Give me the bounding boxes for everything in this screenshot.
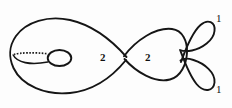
multiplicity-label-top-tail: 1 bbox=[216, 13, 222, 24]
multiplicity-label-left-branch: 2 bbox=[100, 52, 106, 63]
left-large-loop-path bbox=[10, 18, 126, 93]
right-loop-path bbox=[124, 29, 187, 81]
multiplicity-label-bottom-tail: 1 bbox=[216, 84, 222, 95]
curve-diagram-svg bbox=[0, 0, 232, 108]
handle-hidden-arc-dotted-path bbox=[14, 53, 48, 55]
lower-small-loop-path bbox=[181, 51, 215, 90]
handle-hole-oval bbox=[48, 50, 72, 66]
figure-canvas: 2 2 1 1 bbox=[0, 0, 232, 108]
multiplicity-label-right-branch: 2 bbox=[145, 52, 151, 63]
handle-lower-arc-path bbox=[13, 55, 48, 63]
